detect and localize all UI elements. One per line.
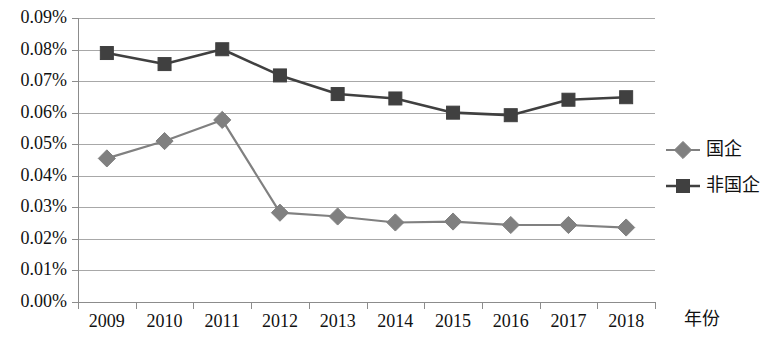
legend-label: 非国企 [706,175,760,195]
x-axis-tick-label: 2012 [262,311,298,331]
legend-item-non-soe[interactable]: 非国企 [666,175,760,195]
legend-item-soe[interactable]: 国企 [666,139,742,159]
legend-marker-icon [677,180,690,193]
data-point-marker [502,216,519,233]
data-point-marker [560,216,577,233]
data-point-marker [389,92,402,105]
x-axis-title: 年份 [684,309,720,329]
data-point-marker [329,208,346,225]
y-axis-tick-label: 0.02% [21,228,68,248]
data-point-marker [271,204,288,221]
series-non-soe [100,43,632,122]
x-axis-tick-labels: 2009201020112012201320142015201620172018 [89,311,644,331]
data-point-marker [156,132,173,149]
data-point-marker [504,109,517,122]
x-axis-tick-label: 2018 [608,311,644,331]
data-point-marker [158,58,171,71]
data-point-marker [447,106,460,119]
series-line [107,120,626,228]
y-axis-tick-label: 0.04% [21,165,68,185]
data-point-marker [216,43,229,56]
data-point-marker [562,93,575,106]
y-axis-tick-label: 0.07% [21,70,68,90]
y-axis-tick-label: 0.08% [21,39,68,59]
x-axis-tick-label: 2014 [377,311,413,331]
y-axis-tick-label: 0.05% [21,133,68,153]
series-line [107,49,626,115]
legend-marker-icon [674,141,691,158]
x-axis-tick-label: 2013 [320,311,356,331]
x-axis-tick-label: 2015 [435,311,471,331]
data-point-marker [444,213,461,230]
x-axis-tick-label: 2017 [550,311,586,331]
y-axis-tick-label: 0.01% [21,259,68,279]
x-axis-tick-label: 2009 [89,311,125,331]
data-point-marker [620,91,633,104]
data-point-marker [618,219,635,236]
data-point-marker [98,150,115,167]
line-chart: 0.09%0.08%0.07%0.06%0.05%0.04%0.03%0.02%… [0,0,764,337]
data-point-marker [100,47,113,60]
y-axis-tick-label: 0.06% [21,102,68,122]
y-axis-tick-labels: 0.09%0.08%0.07%0.06%0.05%0.04%0.03%0.02%… [21,7,68,311]
y-axis-tick-label: 0.09% [21,7,68,27]
chart-legend: 国企非国企 [666,139,760,195]
y-axis-tick-label: 0.00% [21,291,68,311]
data-point-marker [387,214,404,231]
x-axis-tick-label: 2011 [205,311,240,331]
data-point-marker [273,69,286,82]
y-axis-tick-label: 0.03% [21,196,68,216]
data-point-marker [331,88,344,101]
legend-label: 国企 [706,139,742,159]
x-axis-tick-label: 2016 [493,311,529,331]
chart-canvas: 0.09%0.08%0.07%0.06%0.05%0.04%0.03%0.02%… [0,0,764,337]
series-soe [98,111,634,236]
x-axis-tick-label: 2010 [147,311,183,331]
